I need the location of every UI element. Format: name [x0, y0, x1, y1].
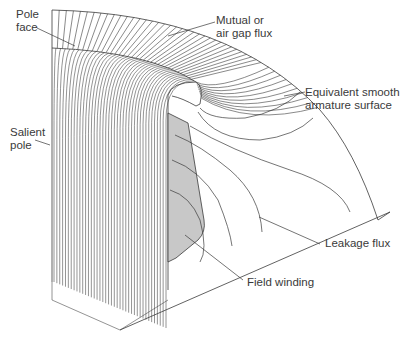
label-pole-face: Pole face — [16, 8, 39, 34]
flux-plot-diagram — [0, 0, 403, 338]
pointer-field-winding — [185, 235, 243, 280]
label-leakage-flux: Leakage flux — [325, 237, 390, 250]
label-mutual-flux: Mutual or air gap flux — [216, 14, 272, 40]
label-armature-surface: Equivalent smooth armature surface — [305, 86, 400, 112]
field-winding-shape — [168, 113, 204, 262]
pointer-leakage-flux — [259, 217, 320, 244]
airgap-flux-lines — [57, 10, 317, 115]
pole-tip — [168, 82, 201, 106]
label-field-winding: Field winding — [247, 276, 314, 289]
armature-surface-arc — [52, 10, 378, 220]
label-salient-pole: Salient pole — [10, 126, 45, 152]
